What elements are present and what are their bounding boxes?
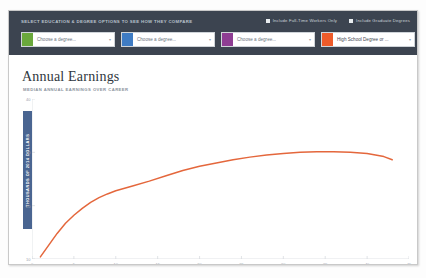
y-axis-label: THOUSANDS OF 2014 DOLLARS: [23, 111, 32, 229]
x-tick-label: 20: [197, 262, 201, 266]
app-root: SELECT EDUCATION & DEGREE OPTIONS TO SEE…: [0, 0, 426, 278]
x-tick-label: 10: [114, 262, 118, 266]
color-swatch-blue: [122, 33, 133, 46]
checkbox-group: Include Full-Time Workers Only Include G…: [266, 18, 410, 23]
checkbox-full-time-workers[interactable]: Include Full-Time Workers Only: [266, 18, 337, 23]
degree-dropdown-4[interactable]: High School Degree or ... ▾: [321, 32, 415, 47]
color-swatch-green: [22, 33, 33, 46]
control-panel: SELECT EDUCATION & DEGREE OPTIONS TO SEE…: [9, 11, 418, 55]
color-swatch-purple: [222, 33, 233, 46]
x-tick-label: 0: [31, 262, 33, 266]
degree-dropdown-3[interactable]: Choose a degree... ▾: [221, 32, 315, 47]
chevron-down-icon[interactable]: ▾: [205, 33, 214, 46]
checkbox-label: Include Full-Time Workers Only: [273, 18, 337, 23]
chevron-down-icon[interactable]: ▾: [405, 33, 414, 46]
plot-wrapper: THOUSANDS OF 2014 DOLLARS YEARS SINCE ST…: [23, 99, 409, 259]
checkbox-indicator-icon[interactable]: [349, 19, 353, 23]
x-tick-label: 45: [407, 262, 411, 266]
y-tick-label: 20: [26, 203, 30, 208]
degree-dropdown-3-value: Choose a degree...: [233, 33, 305, 46]
x-tick-label: 5: [73, 262, 75, 266]
dashboard-card: SELECT EDUCATION & DEGREE OPTIONS TO SEE…: [8, 10, 418, 265]
y-tick-label: 30: [26, 150, 30, 155]
degree-dropdown-2[interactable]: Choose a degree... ▾: [121, 32, 215, 47]
color-swatch-orange: [322, 33, 333, 46]
chart-subtitle: MEDIAN ANNUAL EARNINGS OVER CAREER: [23, 87, 129, 92]
checkbox-label: Include Graduate Degrees: [356, 18, 410, 23]
y-tick-label: 40: [26, 97, 30, 102]
degree-dropdown-1[interactable]: Choose a degree... ▾: [21, 32, 115, 47]
line-chart-svg: [32, 99, 409, 259]
x-tick-label: 30: [281, 262, 285, 266]
chart-title: Annual Earnings: [22, 69, 119, 85]
y-tick-label: 10: [26, 257, 30, 262]
control-panel-title: SELECT EDUCATION & DEGREE OPTIONS TO SEE…: [21, 19, 192, 24]
checkbox-graduate-degrees[interactable]: Include Graduate Degrees: [349, 18, 410, 23]
checkbox-indicator-icon[interactable]: [266, 19, 270, 23]
series-line-0: [40, 152, 392, 257]
degree-dropdown-2-value: Choose a degree...: [133, 33, 205, 46]
x-tick-label: 40: [365, 262, 369, 266]
chevron-down-icon[interactable]: ▾: [105, 33, 114, 46]
x-tick-label: 25: [239, 262, 243, 266]
plot-axes: YEARS SINCE START OF CAREER 102030400510…: [32, 99, 409, 259]
degree-selector-row: Choose a degree... ▾ Choose a degree... …: [21, 32, 415, 47]
chart-panel: Annual Earnings MEDIAN ANNUAL EARNINGS O…: [9, 55, 418, 265]
degree-dropdown-1-value: Choose a degree...: [33, 33, 105, 46]
degree-dropdown-4-value: High School Degree or ...: [333, 33, 405, 46]
chevron-down-icon[interactable]: ▾: [305, 33, 314, 46]
x-tick-label: 35: [323, 262, 327, 266]
x-tick-label: 15: [155, 262, 159, 266]
